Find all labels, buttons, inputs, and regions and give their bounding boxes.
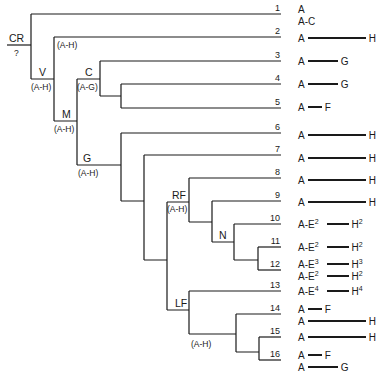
leaf-number: 11: [264, 236, 280, 247]
segment-end: H2: [352, 270, 363, 282]
node-label-g: G: [83, 153, 91, 164]
leaf-number: 9: [264, 190, 280, 201]
segment-end: H: [369, 33, 376, 44]
segment-bar: [308, 134, 366, 136]
node-range-lf: (A-H): [191, 339, 211, 350]
segment-end: G: [341, 79, 349, 90]
segment-end: G: [341, 362, 349, 373]
leaf-number: 10: [264, 213, 280, 224]
leaf-number: 6: [264, 122, 280, 133]
segment-row: AH: [298, 196, 376, 208]
segment-start: A: [298, 175, 305, 186]
segment-mid: E3: [308, 258, 319, 270]
segment-end: H: [369, 197, 376, 208]
branch-v: [31, 37, 54, 121]
segment-start: A: [298, 219, 305, 230]
tree-branches: [7, 14, 281, 360]
segment-end: F: [325, 304, 331, 315]
node-label-n: N: [219, 230, 227, 241]
branch-g: [77, 133, 121, 201]
branch-m: [54, 79, 77, 165]
segment-start: A: [298, 102, 305, 113]
segment-row: AF: [298, 349, 331, 361]
segment-row: AG: [298, 361, 348, 373]
segment-row: A-C: [298, 15, 315, 27]
segment-row: AH: [298, 129, 376, 141]
segment-end: H2: [352, 218, 363, 230]
node-label-lf: LF: [175, 298, 187, 309]
leaf-number: 3: [264, 50, 280, 61]
leaf-number: 15: [264, 326, 280, 337]
segment-row: AH: [298, 152, 376, 164]
segment-bar: [308, 308, 322, 310]
segment-start: A: [298, 259, 305, 270]
segment-bar: [308, 201, 366, 203]
segment-start: A: [298, 4, 305, 15]
leaf-number: 4: [264, 73, 280, 84]
segment-end: H: [369, 175, 376, 186]
node-label-v: V: [39, 67, 46, 78]
segment-mid: E4: [308, 285, 319, 297]
segment-bar: [308, 336, 366, 338]
segment-row: A -E2H2: [298, 270, 363, 282]
segment-row: AH: [298, 32, 376, 44]
leaf-number: 2: [264, 26, 280, 37]
segment-start: A: [298, 242, 305, 253]
branch-rf-lf: [144, 202, 167, 310]
segment-end: F: [325, 102, 331, 113]
segment-bar: [327, 290, 349, 292]
segment-end: H2: [352, 241, 363, 253]
segment-bar: [308, 320, 366, 322]
segment-row: AH: [298, 331, 376, 343]
segment-row: A: [298, 3, 305, 15]
segment-start: A: [298, 304, 305, 315]
node-range-m: (A-H): [54, 124, 74, 135]
segment-start: A: [298, 197, 305, 208]
leaf-number: 13: [264, 280, 280, 291]
branch-n-sub: [234, 247, 258, 270]
node-label-cr: CR: [9, 33, 24, 44]
branch-rf-sub: [189, 201, 212, 242]
segment-bar: [327, 275, 349, 277]
segment-row: A -E2H2: [298, 241, 363, 253]
segment-start: A: [298, 16, 305, 27]
node-range-cr: ?: [14, 48, 19, 59]
segment-row: AF: [298, 303, 331, 315]
leaf-number: 7: [264, 144, 280, 155]
branch-lf-sub2: [236, 337, 259, 360]
branch-g-sub: [121, 155, 144, 260]
segment-end: F: [325, 350, 331, 361]
segment-start: A: [298, 332, 305, 343]
node-label-rf: RF: [172, 190, 186, 201]
segment-start: A: [298, 33, 305, 44]
branch-c-sub: [100, 84, 121, 108]
node-range-g: (A-H): [78, 168, 98, 179]
segment-start: A: [298, 130, 305, 141]
segment-end: H3: [352, 258, 363, 270]
segment-start: A: [298, 286, 305, 297]
leaf-number: 12: [264, 259, 280, 270]
leaf-number: 14: [264, 303, 280, 314]
segment-mid: E2: [308, 218, 319, 230]
segment-row: AF: [298, 101, 331, 113]
segment-bar: [308, 354, 322, 356]
segment-bar: [308, 37, 366, 39]
leaf-number: 16: [264, 349, 280, 360]
segment-end: H: [369, 316, 376, 327]
segment-start: A: [298, 271, 305, 282]
segment-end: H: [369, 332, 376, 343]
node-label-c: C: [85, 67, 93, 78]
segment-bar: [308, 366, 338, 368]
node-label-m: M: [62, 109, 71, 120]
segment-end: H4: [352, 285, 363, 297]
segment-row: AG: [298, 55, 348, 67]
segment-end: C: [308, 16, 315, 27]
segment-start: A: [298, 153, 305, 164]
segment-mid: E2: [308, 270, 319, 282]
node-range-leaf-2: (A-H): [57, 40, 77, 51]
segment-bar: [327, 246, 349, 248]
segment-row: A -E2H2: [298, 218, 363, 230]
segment-bar: [308, 83, 338, 85]
segment-bar: [308, 106, 322, 108]
segment-end: G: [341, 56, 349, 67]
